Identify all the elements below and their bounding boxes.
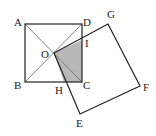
label-G: G bbox=[107, 8, 115, 20]
shaded-quadrilateral-OICH bbox=[54, 40, 82, 82]
label-B: B bbox=[14, 79, 21, 91]
geometry-diagram: A D B C O I H G F E bbox=[0, 0, 156, 136]
label-O: O bbox=[41, 48, 49, 60]
label-A: A bbox=[14, 16, 22, 28]
label-C: C bbox=[83, 79, 90, 91]
label-F: F bbox=[143, 81, 149, 93]
label-D: D bbox=[83, 16, 91, 28]
label-H: H bbox=[55, 84, 63, 96]
label-E: E bbox=[76, 117, 83, 129]
label-I: I bbox=[85, 37, 89, 49]
